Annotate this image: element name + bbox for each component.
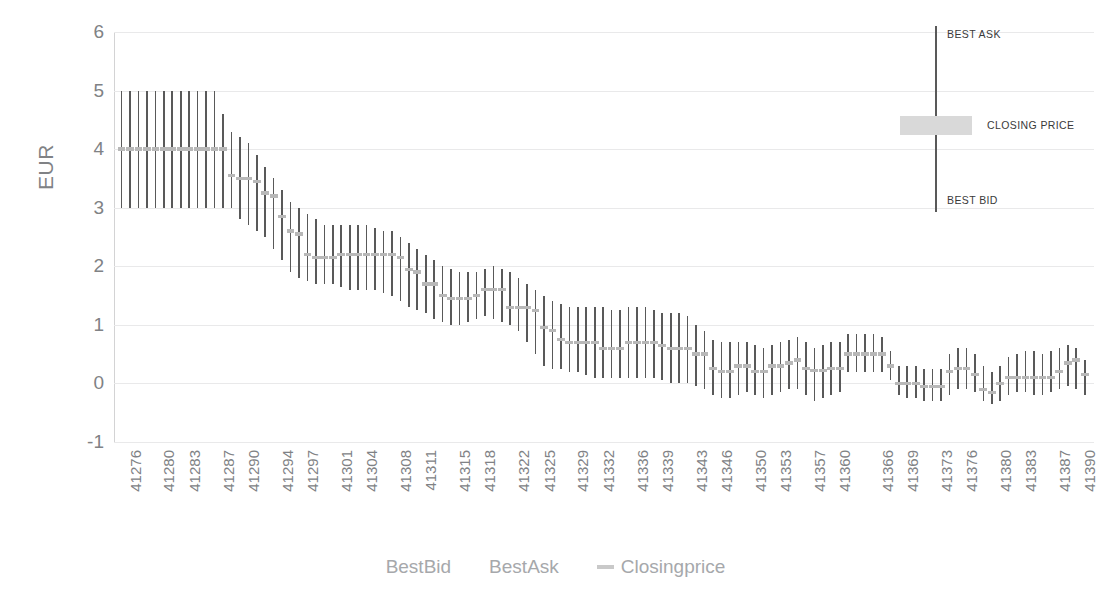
- closing-price-marker: [1005, 376, 1013, 379]
- bid-ask-range-bar: [332, 225, 334, 284]
- closing-price-marker: [658, 344, 666, 347]
- closing-price-marker: [777, 364, 785, 367]
- closing-price-marker: [1047, 376, 1055, 379]
- closing-price-marker: [887, 364, 895, 367]
- closing-price-marker: [515, 306, 523, 309]
- closing-price-marker: [810, 369, 818, 372]
- bid-ask-range-bar: [366, 225, 368, 289]
- x-tick-label: 41287: [220, 450, 237, 492]
- bid-ask-range-bar: [222, 114, 224, 208]
- closing-price-marker: [447, 297, 455, 300]
- closing-price-marker: [599, 347, 607, 350]
- bid-ask-range-bar: [577, 307, 579, 371]
- legend-item[interactable]: Closingprice: [597, 556, 726, 578]
- closing-price-marker: [768, 364, 776, 367]
- x-tick-label: 41360: [836, 450, 853, 492]
- closing-price-marker: [168, 147, 176, 150]
- chart-container: EUR 6543210-1 41276412804128341287412904…: [0, 0, 1111, 600]
- closing-price-marker: [827, 367, 835, 370]
- closing-price-marker: [802, 367, 810, 370]
- chart-legend: BestBidBestAskClosingprice: [0, 556, 1111, 578]
- bid-ask-range-bar: [814, 348, 816, 401]
- legend-swatch-icon: [597, 565, 614, 569]
- closing-price-marker: [194, 147, 202, 150]
- bid-ask-range-bar: [493, 266, 495, 319]
- bid-ask-range-bar: [374, 228, 376, 290]
- closing-price-marker: [734, 364, 742, 367]
- closing-price-marker: [971, 373, 979, 376]
- x-tick-label: 41311: [422, 450, 439, 491]
- closing-price-marker: [473, 294, 481, 297]
- closing-price-marker: [236, 177, 244, 180]
- bid-ask-range-bar: [433, 260, 435, 319]
- x-tick-label: 41294: [279, 450, 296, 492]
- closing-price-marker: [228, 174, 236, 177]
- bid-ask-range-bar: [611, 310, 613, 377]
- closing-price-marker: [616, 347, 624, 350]
- bid-ask-range-bar: [771, 345, 773, 395]
- legend-item[interactable]: BestBid: [386, 556, 451, 578]
- bid-ask-range-bar: [898, 366, 900, 395]
- closing-price-marker: [337, 253, 345, 256]
- x-tick-label: 41350: [752, 450, 769, 492]
- closing-price-marker: [760, 370, 768, 373]
- closing-price-marker: [794, 358, 802, 361]
- closing-price-marker: [557, 338, 565, 341]
- legend-label: BestAsk: [489, 556, 559, 578]
- y-tick-label: 1: [68, 314, 104, 336]
- x-tick-label: 41380: [997, 450, 1014, 492]
- closing-price-marker: [870, 352, 878, 355]
- closing-price-marker: [456, 297, 464, 300]
- y-tick-label: 6: [68, 21, 104, 43]
- bid-ask-range-bar: [408, 243, 410, 307]
- x-tick-label: 41304: [363, 450, 380, 492]
- closing-price-marker: [1072, 358, 1080, 361]
- bid-ask-range-bar: [324, 225, 326, 284]
- bid-ask-range-bar: [1016, 354, 1018, 392]
- closing-price-marker: [489, 288, 497, 291]
- closing-price-marker: [726, 370, 734, 373]
- bid-ask-range-bar: [273, 178, 275, 248]
- bid-ask-range-bar: [231, 132, 233, 208]
- bid-ask-range-bar: [400, 237, 402, 301]
- closing-price-marker: [878, 352, 886, 355]
- closing-price-marker: [160, 147, 168, 150]
- closing-price-marker: [202, 147, 210, 150]
- closing-price-marker: [920, 385, 928, 388]
- chart-key-annotation: BEST ASK CLOSING PRICE BEST BID: [925, 18, 1105, 218]
- closing-price-marker: [253, 180, 261, 183]
- closing-price-marker: [1081, 373, 1089, 376]
- bid-ask-range-bar: [535, 290, 537, 354]
- bid-ask-range-bar: [543, 296, 545, 366]
- bid-ask-range-bar: [509, 272, 511, 325]
- closing-price-marker: [549, 329, 557, 332]
- x-tick-label: 41353: [777, 450, 794, 492]
- x-tick-label: 41336: [634, 450, 651, 492]
- bid-ask-range-bar: [349, 225, 351, 289]
- bid-ask-range-bar: [484, 269, 486, 316]
- x-tick-label: 41390: [1081, 450, 1098, 492]
- y-tick-label: -1: [68, 431, 104, 453]
- x-tick-label: 41369: [904, 450, 921, 492]
- bid-ask-range-bar: [526, 284, 528, 343]
- closing-price-marker: [819, 369, 827, 372]
- bid-ask-range-bar: [991, 372, 993, 404]
- closing-price-marker: [295, 232, 303, 235]
- key-closing-price-marker-icon: [900, 116, 972, 135]
- x-tick-label: 41315: [456, 450, 473, 492]
- closing-price-marker: [853, 352, 861, 355]
- closing-price-marker: [895, 382, 903, 385]
- bid-ask-range-bar: [797, 337, 799, 390]
- bid-ask-range-bar: [983, 366, 985, 401]
- bid-ask-range-bar: [619, 310, 621, 377]
- closing-price-marker: [861, 352, 869, 355]
- x-axis-ticks: 4127641280412834128741290412944129741301…: [114, 450, 1094, 540]
- closing-price-marker: [582, 341, 590, 344]
- x-tick-label: 41376: [963, 450, 980, 492]
- closing-price-marker: [1039, 376, 1047, 379]
- closing-price-marker: [278, 215, 286, 218]
- legend-item[interactable]: BestAsk: [489, 556, 559, 578]
- gridline: [114, 442, 1094, 443]
- bid-ask-range-bar: [560, 304, 562, 368]
- gridline: [114, 266, 1094, 267]
